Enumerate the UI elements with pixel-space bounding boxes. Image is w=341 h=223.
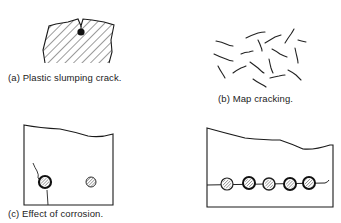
panel-b-map-cracking-drawing — [214, 29, 306, 87]
figure-canvas — [0, 0, 341, 223]
rebar-dot-icon — [77, 28, 84, 35]
panel-c-corrosion-drawing — [24, 125, 113, 205]
caption-panel-a: (a) Plastic slumping crack. — [8, 72, 122, 83]
panel-a-slumping-crack-drawing — [43, 19, 114, 63]
rebar-icon — [86, 177, 96, 187]
caption-panel-b: (b) Map cracking. — [218, 93, 293, 104]
panel-d-delamination-drawing — [207, 128, 333, 207]
caption-panel-c: (c) Effect of corrosion. — [8, 208, 103, 219]
